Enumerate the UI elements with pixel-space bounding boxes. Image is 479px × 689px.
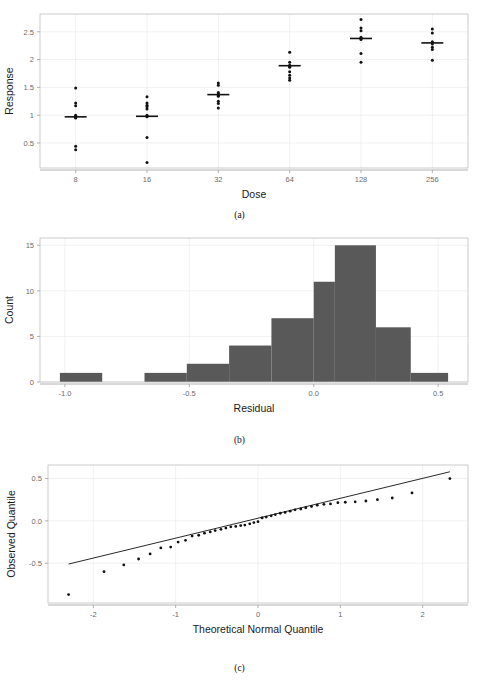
- panel-c-data-point: [279, 512, 282, 515]
- panel-c-data-point: [344, 501, 347, 504]
- panel-b-histogram-bar: [335, 245, 376, 382]
- panel-b-plot: 051015-1.0-0.50.00.5ResidualCount: [0, 230, 479, 430]
- panel-c-x-tick-label: 2: [421, 610, 425, 619]
- panel-b-y-tick-label: 15: [26, 241, 34, 250]
- panel-a-plot: 0.511.522.58163264128256DoseResponse: [0, 0, 479, 205]
- panel-c-y-axis-title: Observed Quantile: [5, 490, 17, 578]
- panel-a-data-point: [431, 48, 434, 51]
- panel-c-data-point: [376, 498, 379, 501]
- panel-b-x-tick-label: 0.0: [309, 389, 319, 398]
- panel-c-caption: (c): [0, 663, 479, 673]
- panel-a-data-point: [288, 74, 291, 77]
- panel-b-x-axis-title: Residual: [234, 402, 275, 414]
- panel-a-data-point: [288, 61, 291, 64]
- panel-a-data-point: [431, 59, 434, 62]
- panel-b-histogram-bar: [376, 327, 411, 382]
- panel-c-data-point: [177, 541, 180, 544]
- panel-c-data-point: [234, 525, 237, 528]
- panel-a-data-point: [360, 52, 363, 55]
- panel-c-y-tick-label: -0.5: [29, 559, 42, 568]
- panel-b-histogram-bar: [271, 318, 313, 382]
- panel-c-data-point: [261, 517, 264, 520]
- panel-c-data-point: [304, 506, 307, 509]
- panel-a-data-point: [74, 104, 77, 107]
- panel-b-histogram-bar: [314, 282, 335, 382]
- panel-c-data-point: [122, 564, 125, 567]
- panel-a-data-point: [360, 18, 363, 21]
- panel-a-y-tick-label: 1.5: [24, 83, 34, 92]
- panel-c-data-point: [274, 513, 277, 516]
- panel-c-qq-plot: -0.50.00.5-2-1012Theoretical Normal Quan…: [0, 455, 479, 689]
- panel-b-y-tick-label: 5: [30, 332, 34, 341]
- panel-b-residual-histogram: 051015-1.0-0.50.00.5ResidualCount (b): [0, 230, 479, 455]
- panel-b-x-tick-label: -1.0: [58, 389, 71, 398]
- panel-c-data-point: [270, 514, 273, 517]
- panel-c-data-point: [159, 547, 162, 550]
- panel-a-y-tick-label: 0.5: [24, 139, 34, 148]
- panel-c-data-point: [224, 527, 227, 530]
- panel-a-data-point: [217, 84, 220, 87]
- panel-c-data-point: [364, 500, 367, 503]
- panel-b-histogram-bar: [60, 373, 102, 382]
- panel-b-y-tick-label: 0: [30, 378, 34, 387]
- panel-c-data-point: [411, 492, 414, 495]
- panel-a-y-axis-title: Response: [3, 67, 15, 114]
- panel-a-data-point: [360, 61, 363, 64]
- panel-b-histogram-bar: [229, 346, 271, 382]
- panel-a-y-tick-label: 2.5: [24, 28, 34, 37]
- panel-c-data-point: [103, 570, 106, 573]
- panel-b-x-tick-label: -0.5: [183, 389, 196, 398]
- panel-c-data-point: [197, 534, 200, 537]
- panel-c-x-tick-label: -2: [90, 610, 97, 619]
- panel-a-x-tick-label: 32: [214, 175, 222, 184]
- panel-c-data-point: [203, 532, 206, 535]
- panel-c-x-tick-label: 0: [256, 610, 260, 619]
- panel-c-data-point: [354, 500, 357, 503]
- panel-c-x-tick-label: -1: [172, 610, 179, 619]
- panel-a-data-point: [360, 29, 363, 32]
- panel-a-data-point: [146, 161, 149, 164]
- panel-c-data-point: [214, 529, 217, 532]
- panel-c-data-point: [322, 503, 325, 506]
- panel-c-y-tick-label: 0.0: [32, 517, 42, 526]
- panel-b-histogram-bar: [411, 373, 448, 382]
- panel-c-data-point: [191, 535, 194, 538]
- panel-a-y-tick-label: 1: [30, 111, 34, 120]
- panel-a-data-point: [146, 108, 149, 111]
- panel-c-data-point: [257, 520, 260, 523]
- panel-b-y-tick-label: 10: [26, 287, 34, 296]
- panel-b-histogram-bar: [145, 373, 187, 382]
- panel-a-data-point: [74, 101, 77, 104]
- panel-c-data-point: [229, 525, 232, 528]
- panel-c-data-point: [284, 511, 287, 514]
- panel-a-data-point: [288, 70, 291, 73]
- panel-c-data-point: [209, 530, 212, 533]
- panel-c-data-point: [336, 501, 339, 504]
- panel-b-histogram-bar: [187, 364, 229, 382]
- panel-a-caption: (a): [0, 210, 479, 220]
- panel-b-y-axis-title: Count: [3, 296, 15, 324]
- panel-a-data-point: [146, 95, 149, 98]
- panel-a-y-tick-label: 2: [30, 55, 34, 64]
- panel-a-x-tick-label: 128: [355, 175, 368, 184]
- panel-c-data-point: [391, 497, 394, 500]
- figure-container: 0.511.522.58163264128256DoseResponse (a)…: [0, 0, 479, 689]
- panel-a-background: [40, 14, 468, 168]
- panel-c-data-point: [294, 508, 297, 511]
- panel-a-x-tick-label: 16: [143, 175, 151, 184]
- panel-c-data-point: [265, 516, 268, 519]
- panel-c-data-point: [329, 503, 332, 506]
- panel-c-data-point: [67, 593, 70, 596]
- panel-a-data-point: [74, 148, 77, 151]
- panel-c-data-point: [252, 521, 255, 524]
- panel-c-data-point: [239, 524, 242, 527]
- panel-a-x-tick-label: 8: [74, 175, 78, 184]
- panel-a-dose-response: 0.511.522.58163264128256DoseResponse (a): [0, 0, 479, 230]
- panel-a-data-point: [431, 28, 434, 31]
- panel-c-data-point: [316, 504, 319, 507]
- panel-c-x-axis-title: Theoretical Normal Quantile: [193, 623, 324, 635]
- panel-a-data-point: [74, 86, 77, 89]
- panel-c-data-point: [310, 505, 313, 508]
- panel-a-x-tick-label: 64: [285, 175, 293, 184]
- panel-b-caption: (b): [0, 435, 479, 445]
